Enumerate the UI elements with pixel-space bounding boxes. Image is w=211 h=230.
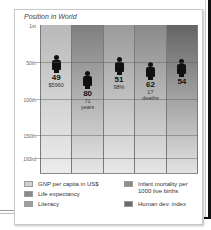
rank-value: 80 xyxy=(72,89,102,98)
legend-label-line2: 1000 live births xyxy=(138,188,178,194)
legend-swatch xyxy=(24,181,33,187)
value-label: 98% xyxy=(104,84,134,90)
legend-swatch xyxy=(24,201,33,207)
legend-label-line1: Infant mortality per xyxy=(138,181,188,187)
y-tick-50th: 50th xyxy=(10,60,36,66)
legend-swatch xyxy=(124,181,133,187)
legend-swatch xyxy=(124,201,133,207)
y-tick-1st: 1st xyxy=(10,23,36,29)
value-label-2: years xyxy=(72,104,102,110)
legend-label: Infant mortality per 1000 live births xyxy=(138,181,188,195)
rank-value: 54 xyxy=(167,77,197,86)
gridline-50th xyxy=(36,62,198,63)
rank-value: 49 xyxy=(41,73,71,82)
legend-label: Literacy xyxy=(38,201,59,208)
legend-item-infant-mortality: Infant mortality per 1000 live births xyxy=(124,181,188,195)
page-edge xyxy=(205,0,211,219)
y-tick-193rd: 193rd xyxy=(10,156,36,162)
legend-label: Life expectancy xyxy=(38,191,80,198)
value-label-2: deaths xyxy=(135,95,165,101)
gridline-100th xyxy=(36,99,198,100)
legend-item-life-expectancy: Life expectancy xyxy=(24,191,80,198)
gridline-193rd xyxy=(36,158,198,159)
legend-label: GNP per capita in US$ xyxy=(38,181,99,188)
person-icon xyxy=(114,57,124,75)
person-icon xyxy=(145,62,155,80)
person-icon xyxy=(51,55,61,73)
gridline-150th xyxy=(36,135,198,136)
legend-item-literacy: Literacy xyxy=(24,201,59,208)
legend-item-gnp: GNP per capita in US$ xyxy=(24,181,99,188)
person-icon xyxy=(83,71,93,89)
legend-label: Human dev. index xyxy=(138,201,186,208)
chart-title: Position in World xyxy=(24,13,77,20)
legend-swatch xyxy=(24,191,33,197)
rank-value: 51 xyxy=(104,75,134,84)
value-label: $5960 xyxy=(41,82,71,88)
y-tick-150th: 150th xyxy=(10,133,36,139)
rank-value: 62 xyxy=(135,80,165,89)
y-tick-100th: 100th xyxy=(10,97,36,103)
legend-item-human-dev-index: Human dev. index xyxy=(124,201,186,208)
